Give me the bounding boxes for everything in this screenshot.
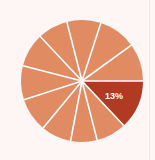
pie-slice-labels: 13% — [105, 91, 123, 101]
pie-chart-canvas: 13% — [0, 0, 155, 160]
pie-chart: 13% — [0, 0, 155, 160]
right-edge-divider — [149, 0, 150, 160]
pie-slice-percent-label: 13% — [105, 91, 123, 101]
